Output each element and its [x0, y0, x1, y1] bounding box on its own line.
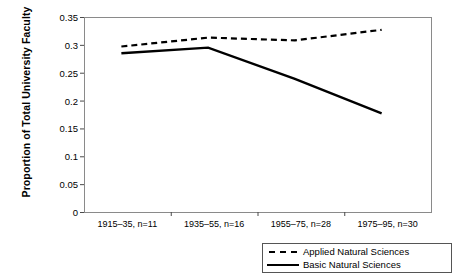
x-tick-label: 1935–55, n=16: [184, 219, 244, 229]
x-tick-label: 1915–35, n=11: [98, 219, 158, 229]
legend-item-applied: Applied Natural Sciences: [266, 245, 448, 258]
chart-legend: Applied Natural Sciences Basic Natural S…: [262, 243, 452, 273]
plot-frame: [85, 18, 432, 213]
legend-label-applied: Applied Natural Sciences: [303, 246, 409, 258]
series-line-applied: [121, 30, 381, 47]
chart-figure: Proportion of Total University Faculty 0…: [0, 0, 462, 280]
legend-item-basic: Basic Natural Sciences: [266, 258, 448, 271]
legend-dashed-line-icon: [266, 246, 300, 258]
legend-solid-line-icon: [266, 259, 300, 271]
plot-canvas: [0, 0, 462, 280]
series-line-basic: [121, 48, 381, 114]
x-tick-label: 1975–95, n=30: [357, 219, 417, 229]
x-tick-label: 1955–75, n=28: [271, 219, 331, 229]
legend-label-basic: Basic Natural Sciences: [303, 259, 401, 271]
